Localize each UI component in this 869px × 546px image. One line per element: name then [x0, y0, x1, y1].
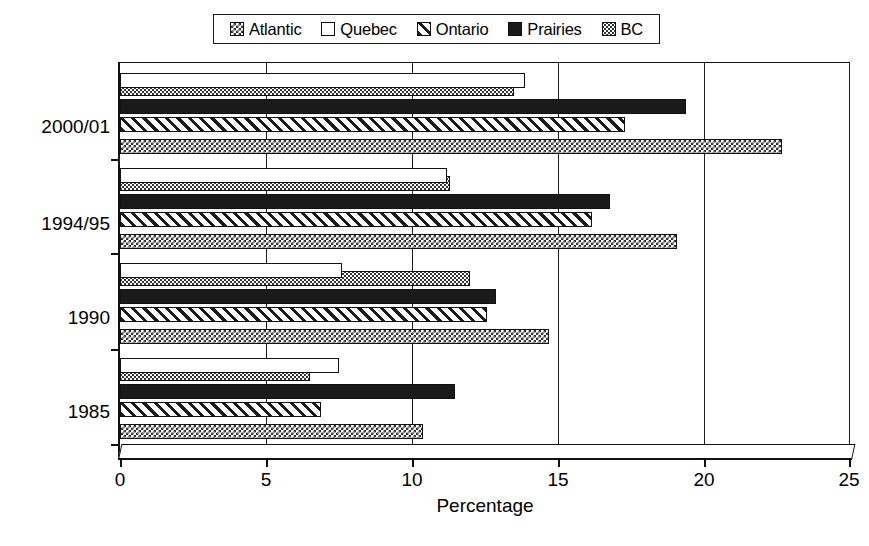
bar-1994-95-ontario	[120, 212, 592, 227]
x-tick-label-5: 5	[246, 469, 286, 491]
y-tick-1	[111, 253, 120, 255]
x-tick-10	[412, 458, 414, 467]
x-tick-25	[849, 458, 851, 467]
chart-legend: Atlantic Quebec Ontario Prairies BC	[213, 14, 660, 44]
x-tick-label-0: 0	[100, 469, 140, 491]
bar-1994-95-prairies	[120, 194, 610, 209]
legend-item-ontario: Ontario	[417, 21, 489, 38]
legend-label-bc: BC	[621, 21, 644, 38]
bar-1985-atlantic	[120, 424, 423, 439]
x-tick-label-25: 25	[829, 469, 869, 491]
y-tick-3	[111, 444, 120, 446]
chart-root: Atlantic Quebec Ontario Prairies BC Surv…	[0, 0, 869, 546]
y-tick-label-1990: 1990	[14, 307, 110, 329]
legend-label-ontario: Ontario	[436, 21, 489, 38]
bar-1985-ontario	[120, 402, 321, 417]
x-tick-0	[120, 458, 122, 467]
bar-1985-prairies	[120, 384, 455, 399]
checkerboard-swatch-icon	[230, 22, 244, 36]
bar-1990-quebec	[120, 263, 342, 278]
solid-swatch-icon	[508, 22, 522, 36]
x-tick-20	[704, 458, 706, 467]
y-tick-0	[111, 159, 120, 161]
y-tick-label-1994-95: 1994/95	[14, 213, 110, 235]
gridline-20	[704, 63, 705, 458]
bar-1990-prairies	[120, 289, 496, 304]
bar-1994-95-quebec	[120, 168, 447, 183]
bar-2000-01-quebec	[120, 73, 525, 88]
bar-2000-01-atlantic	[120, 139, 782, 154]
x-axis-line	[118, 458, 852, 460]
bar-2000-01-prairies	[120, 99, 686, 114]
y-tick-label-1985: 1985	[14, 401, 110, 423]
y-tick-2	[111, 349, 120, 351]
legend-item-quebec: Quebec	[321, 21, 397, 38]
legend-label-quebec: Quebec	[340, 21, 397, 38]
legend-item-bc: BC	[602, 21, 644, 38]
x-tick-label-15: 15	[538, 469, 578, 491]
gridline-25	[849, 63, 850, 458]
y-tick-label-2000-01: 2000/01	[14, 116, 110, 138]
hatch-swatch-icon	[417, 22, 431, 36]
legend-label-prairies: Prairies	[527, 21, 581, 38]
legend-item-atlantic: Atlantic	[230, 21, 302, 38]
x-axis-title: Percentage	[120, 495, 850, 517]
empty-swatch-icon	[321, 22, 335, 36]
bar-1994-95-atlantic	[120, 234, 677, 249]
bar-1985-quebec	[120, 358, 339, 373]
x-tick-label-10: 10	[392, 469, 432, 491]
x-tick-label-20: 20	[684, 469, 724, 491]
bar-1990-ontario	[120, 307, 487, 322]
legend-label-atlantic: Atlantic	[249, 21, 302, 38]
bar-2000-01-ontario	[120, 117, 625, 132]
plot-area: 0 5 10 15 20 25 Percentage	[118, 62, 850, 458]
bar-1990-atlantic	[120, 329, 549, 344]
x-tick-15	[558, 458, 560, 467]
legend-item-prairies: Prairies	[508, 21, 581, 38]
dots-swatch-icon	[602, 22, 616, 36]
x-tick-5	[266, 458, 268, 467]
